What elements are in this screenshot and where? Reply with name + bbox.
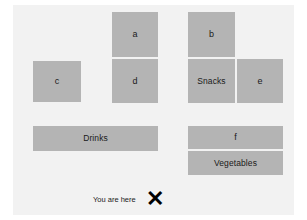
store-map-canvas: a b c d Snacks e Drinks f Vegetables You… (13, 5, 294, 215)
map-block-a[interactable]: a (112, 12, 158, 57)
map-block-b[interactable]: b (188, 12, 235, 57)
map-block-f[interactable]: f (188, 126, 283, 149)
map-block-label: b (209, 30, 214, 39)
map-block-label: Vegetables (214, 159, 257, 168)
map-block-label: e (257, 77, 262, 86)
map-block-label: c (55, 77, 60, 86)
map-block-label: Snacks (197, 77, 225, 86)
map-block-snacks[interactable]: Snacks (188, 59, 235, 103)
map-block-vegetables[interactable]: Vegetables (188, 151, 283, 175)
map-block-label: a (132, 30, 137, 39)
map-block-c[interactable]: c (33, 61, 81, 102)
map-block-d[interactable]: d (112, 59, 158, 103)
map-block-label: d (132, 77, 137, 86)
map-block-e[interactable]: e (237, 59, 283, 103)
map-block-label: f (234, 133, 237, 142)
you-are-here-label: You are here (93, 195, 136, 204)
map-block-drinks[interactable]: Drinks (33, 126, 158, 151)
you-are-here-marker-icon: ✕ (146, 188, 164, 210)
map-block-label: Drinks (83, 134, 108, 143)
